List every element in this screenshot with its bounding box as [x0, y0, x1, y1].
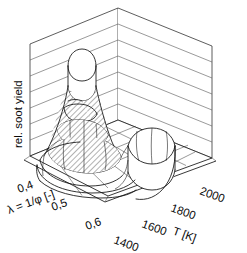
- y-axis-title: T [K]: [171, 225, 198, 245]
- y-tick-label-3: 2000: [198, 185, 226, 205]
- chart-canvas: rel. soot yield 0,4 0,5 0,6 λ = 1/φ [-] …: [0, 0, 247, 253]
- x-tick-label-2: 0,6: [84, 215, 103, 232]
- y-tick-label-1: 1600: [140, 218, 168, 238]
- x-axis-title: λ = 1/φ [-]: [6, 188, 56, 216]
- soot-yield-3d-chart: rel. soot yield 0,4 0,5 0,6 λ = 1/φ [-] …: [0, 0, 247, 253]
- z-axis-title: rel. soot yield: [12, 80, 24, 148]
- y-tick-label-2: 1800: [169, 202, 197, 222]
- y-tick-label-0: 1400: [112, 234, 140, 253]
- x-tick-label-0: 0,4: [16, 178, 36, 195]
